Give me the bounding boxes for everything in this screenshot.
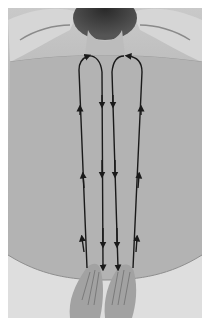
left-arm: [8, 9, 78, 62]
back: [8, 56, 202, 280]
back-massage-photo: [8, 8, 202, 318]
right-arm: [132, 9, 202, 62]
photo-scene: [8, 8, 202, 318]
head-hair: [73, 8, 137, 40]
